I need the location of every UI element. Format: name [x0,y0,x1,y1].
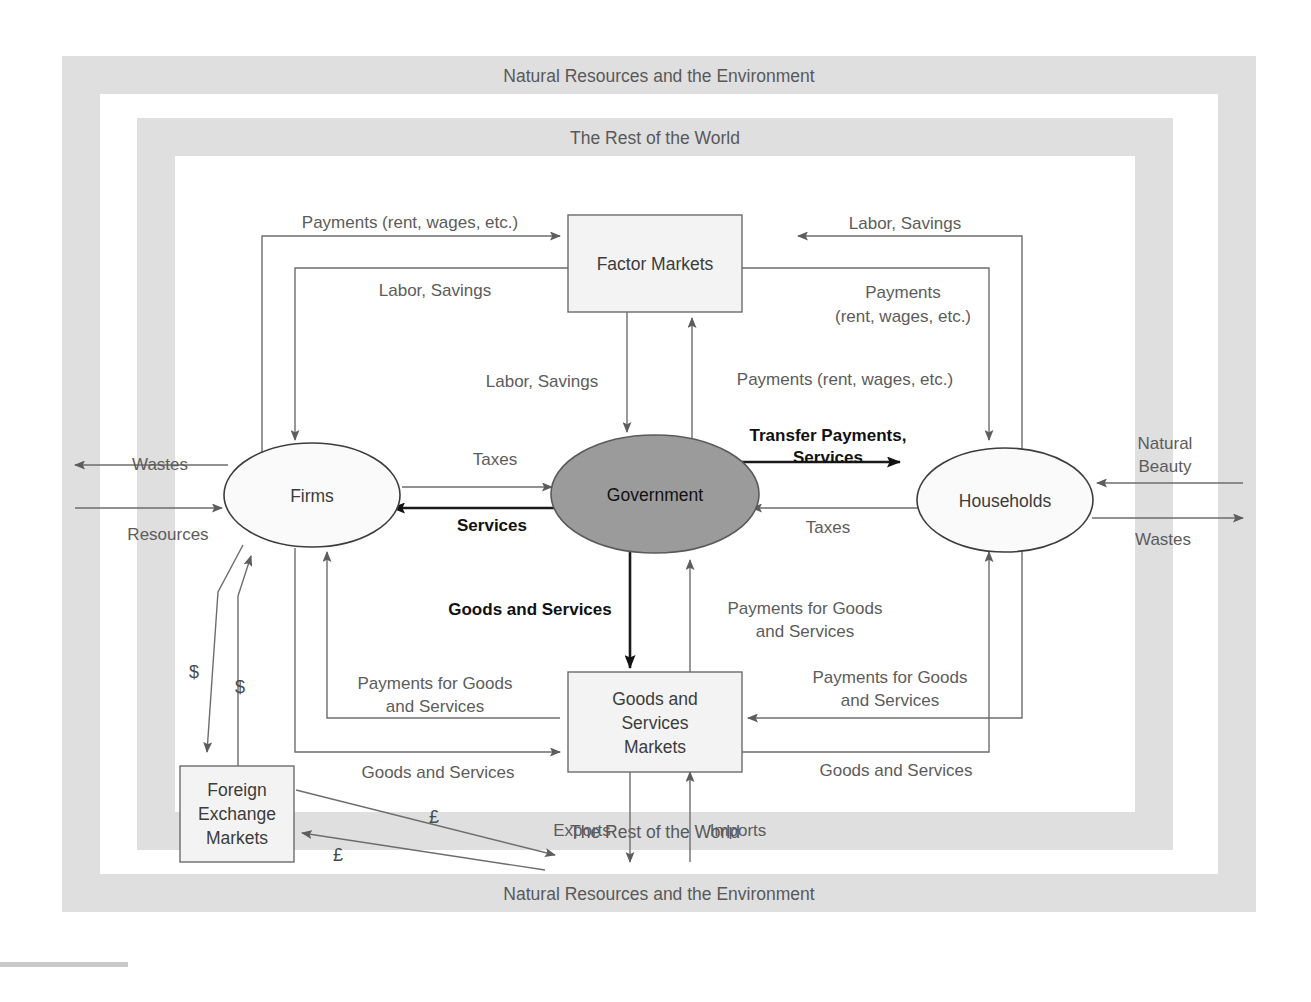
inner-frame-left-band [137,118,175,850]
goods-services-markets-label-line1: Goods and [612,689,698,709]
node-factor-markets[interactable]: Factor Markets [568,215,742,312]
factor-markets-label: Factor Markets [597,254,714,274]
label-firms-resources: Resources [127,525,208,544]
label-government-to-households-transfer-line1: Transfer Payments, [750,426,907,445]
goods-services-markets-label-line3: Markets [624,737,686,757]
foreign-exchange-label-line1: Foreign [207,780,266,800]
label-households-to-government-taxes: Taxes [806,518,850,537]
label-government-to-goods-services: Goods and Services [448,600,611,619]
label-factor-to-government-labor: Labor, Savings [486,372,598,391]
node-households[interactable]: Households [917,448,1093,552]
label-dollar-out: $ [189,662,199,682]
label-factor-to-households-payments-line2: (rent, wages, etc.) [835,307,971,326]
goods-services-markets-label-line2: Services [621,713,688,733]
footer-rule [0,962,128,967]
node-foreign-exchange-markets[interactable]: Foreign Exchange Markets [180,766,294,862]
circular-flow-diagram: Natural Resources and the Environment Na… [0,0,1311,1002]
label-factor-to-firms-labor: Labor, Savings [379,281,491,300]
label-natural-beauty-line1: Natural [1138,434,1193,453]
label-pound-out: £ [429,807,439,827]
inner-frame-right-band [1135,118,1173,850]
label-households-wastes: Wastes [1135,530,1191,549]
label-goods-to-government-payments-line1: Payments for Goods [728,599,883,618]
households-label: Households [959,491,1052,511]
outer-frame-left-band [62,56,100,912]
label-factor-to-households-payments-line1: Payments [865,283,941,302]
label-households-to-goods-payments-line1: Payments for Goods [813,668,968,687]
foreign-exchange-label-line3: Markets [206,828,268,848]
outer-frame-right-band [1218,56,1256,912]
label-exports: Exports [553,821,611,840]
firms-label: Firms [290,486,334,506]
label-goods-to-government-payments-line2: and Services [756,622,854,641]
node-government[interactable]: Government [551,435,759,553]
label-imports: Imports [710,821,767,840]
flow-goods-to-households-services [742,552,989,752]
label-firms-to-factor-payments: Payments (rent, wages, etc.) [302,213,518,232]
flow-goods-to-firms-payments [327,552,560,718]
label-dollar-in: $ [235,677,245,697]
government-label: Government [607,485,703,505]
label-natural-beauty-line2: Beauty [1139,457,1192,476]
flow-firms-to-goods-services [295,548,560,752]
label-goods-to-firms-payments-line1: Payments for Goods [358,674,513,693]
label-goods-to-firms-payments-line2: and Services [386,697,484,716]
label-households-goods-services: Goods and Services [819,761,972,780]
label-government-to-households-transfer-line2: Services [793,448,863,467]
label-firms-to-government-taxes: Taxes [473,450,517,469]
label-firms-wastes: Wastes [132,455,188,474]
label-households-to-factor-labor: Labor, Savings [849,214,961,233]
outer-frame-top-label: Natural Resources and the Environment [503,66,814,86]
label-government-to-factor-payments: Payments (rent, wages, etc.) [737,370,953,389]
foreign-exchange-label-line2: Exchange [198,804,276,824]
label-households-to-goods-payments-line2: and Services [841,691,939,710]
inner-frame-top-label: The Rest of the World [570,128,740,148]
node-goods-services-markets[interactable]: Goods and Services Markets [568,672,742,772]
outer-frame-bottom-label: Natural Resources and the Environment [503,884,814,904]
label-firms-goods-services: Goods and Services [361,763,514,782]
node-firms[interactable]: Firms [224,443,400,547]
label-government-to-firms-services: Services [457,516,527,535]
label-pound-in: £ [333,845,343,865]
